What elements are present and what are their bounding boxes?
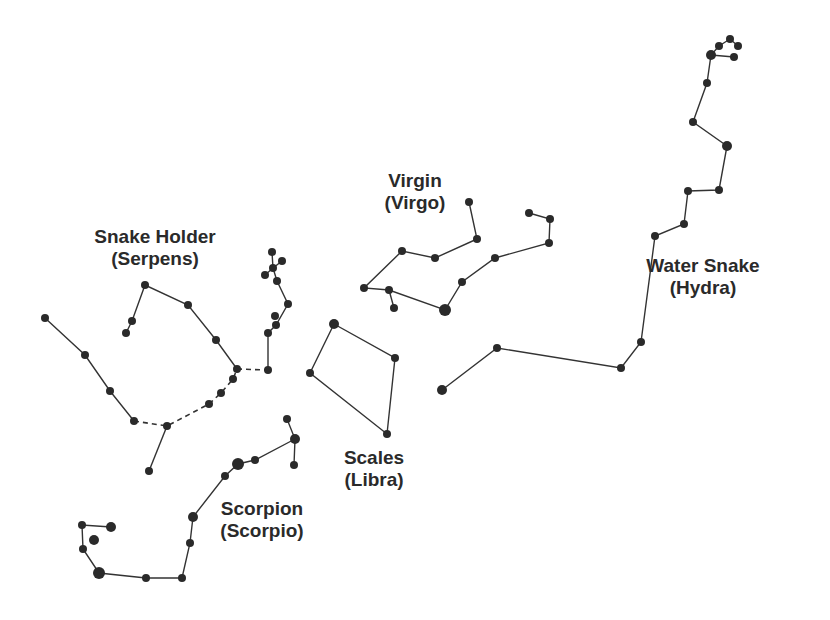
star-dot <box>465 198 473 206</box>
star-dot <box>283 415 291 423</box>
star-dot <box>264 366 272 374</box>
star-dot <box>715 186 723 194</box>
star-dot <box>251 456 259 464</box>
label-libra-latin: (Libra) <box>344 469 404 491</box>
label-serpens-latin: (Serpens) <box>94 248 215 270</box>
star-dot <box>278 257 286 265</box>
star-dot <box>637 338 645 346</box>
star-dot <box>437 385 447 395</box>
star-dot <box>269 264 277 272</box>
star-dot <box>128 317 136 325</box>
star-dot <box>272 321 280 329</box>
star-dot <box>730 53 738 61</box>
star-dot <box>130 417 138 425</box>
star-dot <box>122 329 130 337</box>
dashed-connector <box>134 369 237 426</box>
star-dot <box>178 574 186 582</box>
star-dot <box>264 329 272 337</box>
star-dot <box>722 141 732 151</box>
star-dot <box>290 434 300 444</box>
star-dot <box>290 461 298 469</box>
star-dot <box>689 118 697 126</box>
star-dot <box>229 375 237 383</box>
star-dot <box>81 351 89 359</box>
constellation-chart <box>0 0 830 620</box>
star-dot <box>391 354 399 362</box>
star-dot <box>726 35 734 43</box>
star-dot <box>360 284 368 292</box>
label-scorpio: Scorpion (Scorpio) <box>220 498 303 542</box>
constellation-libra <box>306 319 399 438</box>
constellation-serpens <box>41 248 292 475</box>
star-dot <box>217 389 225 397</box>
star-dot <box>233 365 241 373</box>
star-connector <box>442 39 738 390</box>
label-virgo-latin: (Virgo) <box>385 192 446 214</box>
star-dot <box>184 301 192 309</box>
star-dot <box>273 277 281 285</box>
star-dot <box>268 248 276 256</box>
star-dot <box>458 278 466 286</box>
star-dot <box>491 254 499 262</box>
star-dot <box>545 239 553 247</box>
dashed-connector <box>237 369 268 370</box>
star-dot <box>546 215 554 223</box>
label-scorpio-latin: (Scorpio) <box>220 520 303 542</box>
star-dot <box>93 567 105 579</box>
star-dot <box>205 400 213 408</box>
label-hydra-latin: (Hydra) <box>646 277 759 299</box>
star-dot <box>79 545 87 553</box>
star-dot <box>106 387 114 395</box>
label-scorpio-name: Scorpion <box>220 498 303 520</box>
star-connector <box>364 202 550 310</box>
star-dot <box>106 522 116 532</box>
star-dot <box>684 187 692 195</box>
star-dot <box>493 344 501 352</box>
label-libra: Scales (Libra) <box>344 447 404 491</box>
star-dot <box>163 422 171 430</box>
label-serpens: Snake Holder (Serpens) <box>94 226 215 270</box>
star-dot <box>703 79 711 87</box>
star-dot <box>284 300 292 308</box>
star-dot <box>212 336 220 344</box>
constellation-virgo <box>360 198 554 316</box>
star-dot <box>221 472 229 480</box>
star-dot <box>329 319 339 329</box>
star-dot <box>525 209 533 217</box>
label-virgo-name: Virgin <box>385 170 446 192</box>
star-dot <box>186 539 194 547</box>
star-connector <box>149 426 167 471</box>
star-dot <box>390 304 398 312</box>
star-connector <box>45 318 134 421</box>
label-serpens-name: Snake Holder <box>94 226 215 248</box>
star-dot <box>271 312 279 320</box>
star-dot <box>89 535 99 545</box>
label-hydra: Water Snake (Hydra) <box>646 255 759 299</box>
star-dot <box>41 314 49 322</box>
star-connector <box>126 285 237 369</box>
star-dot <box>261 271 269 279</box>
star-dot <box>734 42 742 50</box>
star-dot <box>680 220 688 228</box>
star-dot <box>306 369 314 377</box>
star-dot <box>715 42 723 50</box>
star-dot <box>431 254 439 262</box>
star-dot <box>142 574 150 582</box>
star-dot <box>385 286 393 294</box>
star-dot <box>232 458 244 470</box>
star-dot <box>439 304 451 316</box>
label-libra-name: Scales <box>344 447 404 469</box>
constellation-hydra <box>437 35 742 395</box>
star-dot <box>398 247 406 255</box>
star-dot <box>383 430 391 438</box>
label-hydra-name: Water Snake <box>646 255 759 277</box>
star-dot <box>78 521 86 529</box>
star-dot <box>188 512 198 522</box>
star-dot <box>617 364 625 372</box>
star-connector <box>310 324 395 434</box>
star-dot <box>706 50 716 60</box>
star-dot <box>473 235 481 243</box>
label-virgo: Virgin (Virgo) <box>385 170 446 214</box>
star-dot <box>651 232 659 240</box>
star-dot <box>145 467 153 475</box>
